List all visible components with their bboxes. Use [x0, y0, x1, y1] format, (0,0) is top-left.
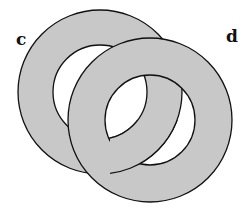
interlocked-rings-diagram — [0, 0, 243, 209]
label-c: c — [16, 31, 26, 48]
label-d: d — [226, 28, 238, 45]
